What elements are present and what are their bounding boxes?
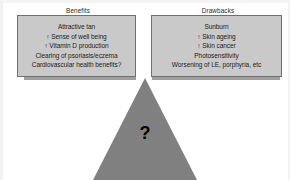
benefits-item: Attractive tan — [58, 22, 95, 32]
drawbacks-item: Sunburn — [204, 22, 228, 32]
benefits-pan: Attractive tan ↑ Sense of well being ↑ V… — [17, 15, 136, 77]
benefits-item: Clearing of psoriasis/eczema — [35, 51, 117, 61]
drawbacks-pan: Sunburn ↑ Skin ageing ↑ Skin cancer Phot… — [151, 15, 282, 77]
drawbacks-item: ↑ Skin cancer — [197, 41, 235, 51]
drawbacks-item: Photosensitivity — [194, 51, 238, 61]
benefits-item: ↑ Vitamin D production — [44, 41, 108, 51]
left-pan-title: Benefits — [20, 7, 136, 15]
drawbacks-item: Worsening of LE, porphyria, etc — [172, 60, 261, 70]
question-mark-label: ? — [131, 124, 159, 142]
figure-canvas: Benefits Drawbacks Attractive tan ↑ Sens… — [0, 0, 290, 180]
benefits-item: Cardiovascular health benefits? — [32, 60, 122, 70]
drawbacks-item: ↑ Skin ageing — [197, 32, 235, 42]
benefits-item: ↑ Sense of well being — [46, 32, 106, 42]
right-pan-title: Drawbacks — [155, 7, 281, 15]
